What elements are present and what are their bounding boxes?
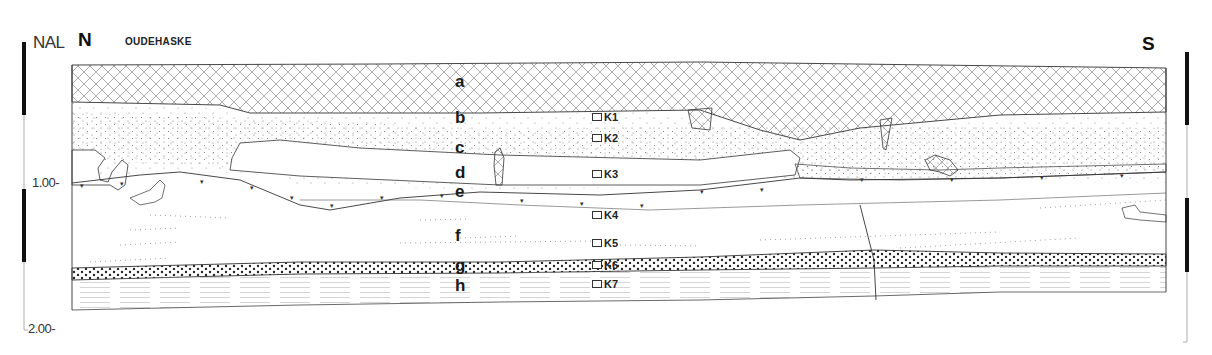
svg-text:▾: ▾ <box>120 180 124 188</box>
svg-text:▾: ▾ <box>380 194 384 202</box>
svg-text:▾: ▾ <box>640 202 644 210</box>
sample-box-icon <box>592 239 602 247</box>
sample-k2: K2 <box>592 132 618 144</box>
layer-label-a: a <box>455 72 464 92</box>
sample-box-icon <box>592 134 602 142</box>
svg-text:▾: ▾ <box>200 178 204 186</box>
layer-label-h: h <box>455 276 465 296</box>
left-scale-bar <box>22 42 28 330</box>
svg-text:▾: ▾ <box>290 194 294 202</box>
svg-text:▾: ▾ <box>330 202 334 210</box>
section-profile: ▾▾▾ ▾▾▾ ▾▾▾ ▾▾▾ ▾▾▾ ▾▾ <box>72 62 1166 310</box>
svg-text:▾: ▾ <box>580 200 584 208</box>
north-label: N <box>78 29 92 51</box>
sample-k4: K4 <box>592 209 618 221</box>
layer-label-f: f <box>455 226 461 246</box>
layer-label-d: d <box>455 163 465 183</box>
layer-label-b: b <box>455 108 465 128</box>
svg-text:▾: ▾ <box>250 184 254 192</box>
svg-text:▾: ▾ <box>80 182 84 190</box>
site-title: OUDEHASKE <box>125 36 192 47</box>
sample-k1: K1 <box>592 111 618 123</box>
sample-k5: K5 <box>592 237 618 249</box>
right-scale-bar <box>1183 52 1189 342</box>
layer-label-g: g <box>455 256 465 276</box>
svg-text:▾: ▾ <box>700 188 704 196</box>
sample-k6: K6 <box>592 259 618 271</box>
sample-k3: K3 <box>592 168 618 180</box>
layer-label-e: e <box>455 182 464 202</box>
svg-text:▾: ▾ <box>760 186 764 194</box>
datum-label: NAL <box>33 33 65 53</box>
scale-tick-200: 2.00- <box>28 321 55 336</box>
sample-box-icon <box>592 211 602 219</box>
sample-box-icon <box>592 170 602 178</box>
sample-box-icon <box>592 113 602 121</box>
svg-text:▾: ▾ <box>440 192 444 200</box>
sample-k7: K7 <box>592 278 618 290</box>
sample-box-icon <box>592 261 602 269</box>
south-label: S <box>1142 33 1155 55</box>
scale-tick-100: 1.00- <box>32 175 59 190</box>
svg-text:▾: ▾ <box>520 197 524 205</box>
sample-box-icon <box>592 280 602 288</box>
layer-label-c: c <box>455 138 464 158</box>
